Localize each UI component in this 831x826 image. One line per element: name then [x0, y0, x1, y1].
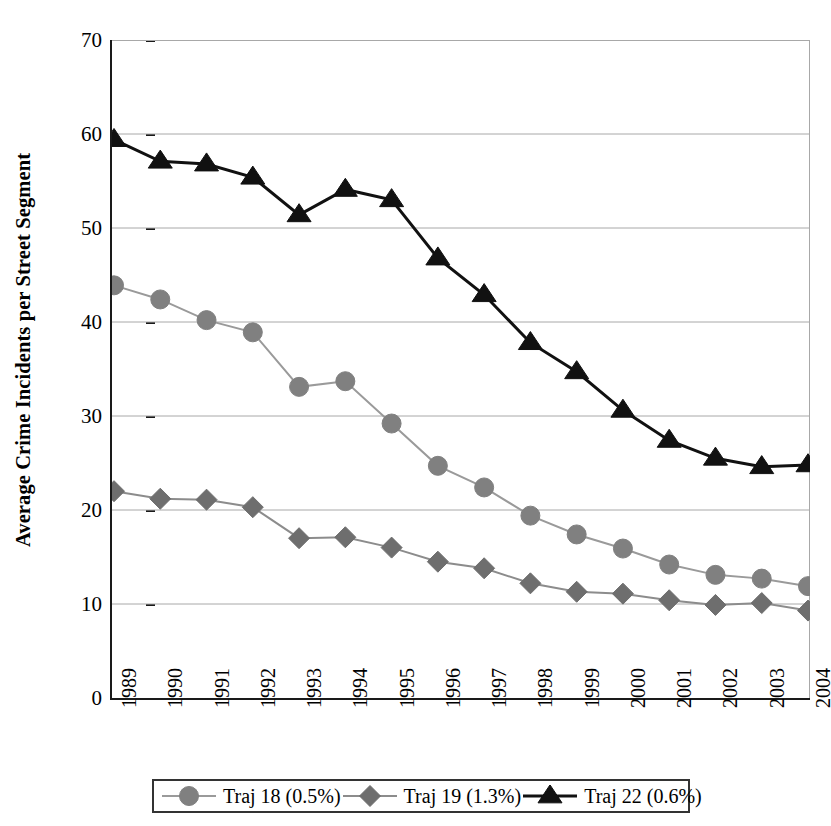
- y-tick-label: 0: [54, 688, 102, 709]
- legend-marker-svg: [521, 785, 579, 807]
- y-tick-label: 20: [54, 500, 102, 521]
- x-tick-label: 2002: [702, 706, 724, 776]
- data-point-marker: [521, 506, 540, 525]
- data-point-marker: [428, 456, 447, 475]
- data-point-marker: [474, 558, 495, 579]
- data-point-marker: [796, 454, 810, 472]
- data-point-marker: [427, 551, 448, 572]
- data-point-marker: [151, 290, 170, 309]
- x-tick-label: 1992: [240, 706, 262, 776]
- y-tick-label: 30: [54, 406, 102, 427]
- y-axis-title: Average Crime Incidents per Street Segme…: [12, 153, 35, 547]
- x-tick-label: 1998: [517, 706, 539, 776]
- data-point-marker: [612, 583, 633, 604]
- data-point-marker: [798, 600, 811, 621]
- x-tick-label: 1996: [425, 706, 447, 776]
- legend-item[interactable]: Traj 19 (1.3%): [341, 785, 522, 807]
- data-point-marker: [565, 361, 589, 379]
- data-point-marker: [243, 323, 262, 342]
- legend-marker: [180, 787, 199, 806]
- data-point-marker: [195, 153, 219, 171]
- y-axis-tick-labels: 010203040506070: [44, 0, 102, 826]
- crime-trajectory-chart: Average Crime Incidents per Street Segme…: [0, 0, 831, 826]
- data-point-marker: [333, 178, 357, 196]
- y-tick-label: 60: [54, 124, 102, 145]
- y-tick-label: 70: [54, 30, 102, 51]
- chart-legend: Traj 18 (0.5%)Traj 19 (1.3%)Traj 22 (0.6…: [152, 779, 690, 813]
- legend-marker: [538, 785, 562, 803]
- x-tick-label: 1993: [286, 706, 308, 776]
- data-point-marker: [706, 565, 725, 584]
- x-tick-label: 2001: [656, 706, 678, 776]
- data-point-marker: [336, 372, 355, 391]
- legend-label: Traj 18 (0.5%): [223, 786, 341, 806]
- x-tick-label: 2004: [795, 706, 817, 776]
- data-point-marker: [242, 497, 263, 518]
- data-point-marker: [567, 525, 586, 544]
- series-line: [114, 491, 808, 610]
- legend-label: Traj 22 (0.6%): [584, 786, 702, 806]
- x-tick-label: 1989: [101, 706, 123, 776]
- legend-item[interactable]: Traj 22 (0.6%): [521, 785, 702, 807]
- data-point-marker: [520, 573, 541, 594]
- y-tick-label: 40: [54, 312, 102, 333]
- data-point-marker: [112, 481, 125, 502]
- legend-marker: [359, 786, 380, 807]
- series-circle: [112, 276, 810, 596]
- circle-marker-icon: [160, 785, 218, 807]
- data-point-marker: [659, 590, 680, 611]
- series-triangle: [112, 128, 810, 473]
- data-point-marker: [660, 555, 679, 574]
- data-point-marker: [475, 478, 494, 497]
- data-point-marker: [150, 488, 171, 509]
- legend-marker-svg: [160, 785, 218, 807]
- series-line: [114, 285, 808, 586]
- x-tick-label: 1997: [471, 706, 493, 776]
- data-point-marker: [112, 276, 124, 295]
- legend-item[interactable]: Traj 18 (0.5%): [160, 785, 341, 807]
- y-tick-label: 10: [54, 594, 102, 615]
- data-point-marker: [752, 569, 771, 588]
- data-point-marker: [799, 577, 811, 596]
- data-point-marker: [751, 593, 772, 614]
- x-tick-label: 2000: [610, 706, 632, 776]
- data-point-marker: [290, 377, 309, 396]
- y-axis-title-container: Average Crime Incidents per Street Segme…: [0, 0, 46, 700]
- data-point-marker: [112, 128, 126, 146]
- data-point-marker: [381, 537, 402, 558]
- series-diamond: [112, 481, 810, 621]
- data-point-marker: [657, 429, 681, 447]
- x-tick-label: 2003: [749, 706, 771, 776]
- x-tick-label: 1995: [379, 706, 401, 776]
- plot-area: [110, 40, 810, 700]
- data-point-marker: [289, 528, 310, 549]
- data-point-marker: [613, 539, 632, 558]
- x-tick-label: 1991: [194, 706, 216, 776]
- data-point-marker: [382, 414, 401, 433]
- y-tick-label: 50: [54, 218, 102, 239]
- data-point-marker: [148, 150, 172, 168]
- triangle-marker-icon: [521, 785, 579, 807]
- diamond-marker-icon: [341, 785, 399, 807]
- data-point-marker: [196, 489, 217, 510]
- plot-svg: [112, 40, 810, 700]
- legend-marker-svg: [341, 785, 399, 807]
- data-point-marker: [705, 594, 726, 615]
- data-point-marker: [335, 527, 356, 548]
- x-tick-label: 1994: [332, 706, 354, 776]
- x-tick-label: 1990: [147, 706, 169, 776]
- legend-label: Traj 19 (1.3%): [404, 786, 522, 806]
- data-point-marker: [566, 581, 587, 602]
- data-point-marker: [197, 311, 216, 330]
- series-line: [114, 140, 808, 467]
- x-tick-label: 1999: [564, 706, 586, 776]
